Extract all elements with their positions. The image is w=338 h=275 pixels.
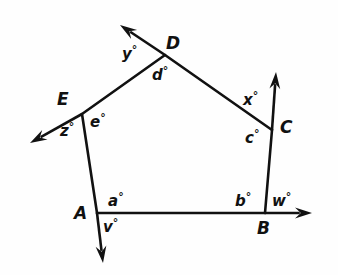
angle-variable-a: a: [108, 192, 118, 210]
geometry-figure: ABCDEa°b°c°d°e°v°w°x°y°z°: [0, 0, 338, 275]
vertex-label-d: D: [166, 35, 180, 52]
interior-angle-label-c: c°: [245, 128, 259, 146]
degree-symbol-icon: °: [246, 190, 252, 203]
degree-symbol-icon: °: [163, 64, 169, 77]
angle-variable-w: w: [272, 192, 286, 210]
angle-variable-c: c: [245, 129, 254, 147]
exterior-angle-label-y: y°: [122, 44, 137, 62]
ray-bc-beyond-c: [272, 84, 275, 130]
exterior-angle-label-z: z°: [60, 121, 74, 139]
pentagon-side-de: [82, 55, 165, 114]
interior-angle-label-a: a°: [108, 191, 124, 209]
degree-symbol-icon: °: [118, 190, 124, 203]
degree-symbol-icon: °: [286, 190, 292, 203]
exterior-angle-label-v: v°: [103, 217, 118, 235]
degree-symbol-icon: °: [254, 127, 260, 140]
vertex-label-a: A: [74, 205, 87, 222]
vertex-label-b: B: [257, 220, 270, 237]
exterior-angle-label-x: x°: [243, 90, 258, 108]
exterior-angle-label-w: w°: [272, 191, 291, 209]
angle-variable-x: x: [243, 91, 253, 109]
degree-symbol-icon: °: [69, 120, 75, 133]
pentagon-side-group: [82, 55, 272, 213]
interior-angle-label-e: e°: [90, 112, 106, 130]
angle-variable-y: y: [122, 45, 132, 63]
vertex-label-c: C: [280, 119, 293, 136]
interior-angle-label-d: d°: [152, 65, 168, 83]
ray-ea-beyond-a: [97, 213, 102, 251]
angle-variable-v: v: [103, 218, 113, 236]
ray-cd-beyond-d-arrowhead: [120, 25, 137, 39]
angle-variable-e: e: [90, 113, 100, 131]
pentagon-side-bc: [265, 130, 272, 213]
ray-de-beyond-e-arrowhead: [30, 130, 47, 143]
degree-symbol-icon: °: [113, 216, 119, 229]
degree-symbol-icon: °: [132, 43, 138, 56]
angle-variable-d: d: [152, 66, 163, 84]
vertex-label-e: E: [57, 91, 69, 108]
angle-variable-z: z: [60, 122, 69, 140]
degree-symbol-icon: °: [253, 89, 259, 102]
angle-variable-b: b: [235, 192, 246, 210]
interior-angle-label-b: b°: [235, 191, 251, 209]
degree-symbol-icon: °: [100, 111, 106, 124]
